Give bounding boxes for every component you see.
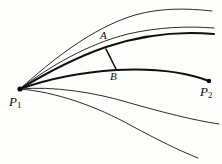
point-p1-dot [17,86,22,91]
point-label-p2-subscript: 2 [208,90,212,100]
point-label-a: A [100,30,107,41]
point-label-p1-base: P [9,94,17,109]
geometry-figure: P1 P2 A B [0,0,222,164]
point-label-p1: P1 [9,95,21,110]
figure-canvas [0,0,222,164]
chord-a-b-segment [106,49,116,69]
outer-lower-curve [20,89,198,158]
point-label-p2: P2 [200,85,212,100]
point-label-p1-subscript: 1 [17,100,21,110]
point-label-p2-base: P [200,84,208,99]
point-label-b: B [110,71,117,82]
point-p2-dot [207,79,211,83]
